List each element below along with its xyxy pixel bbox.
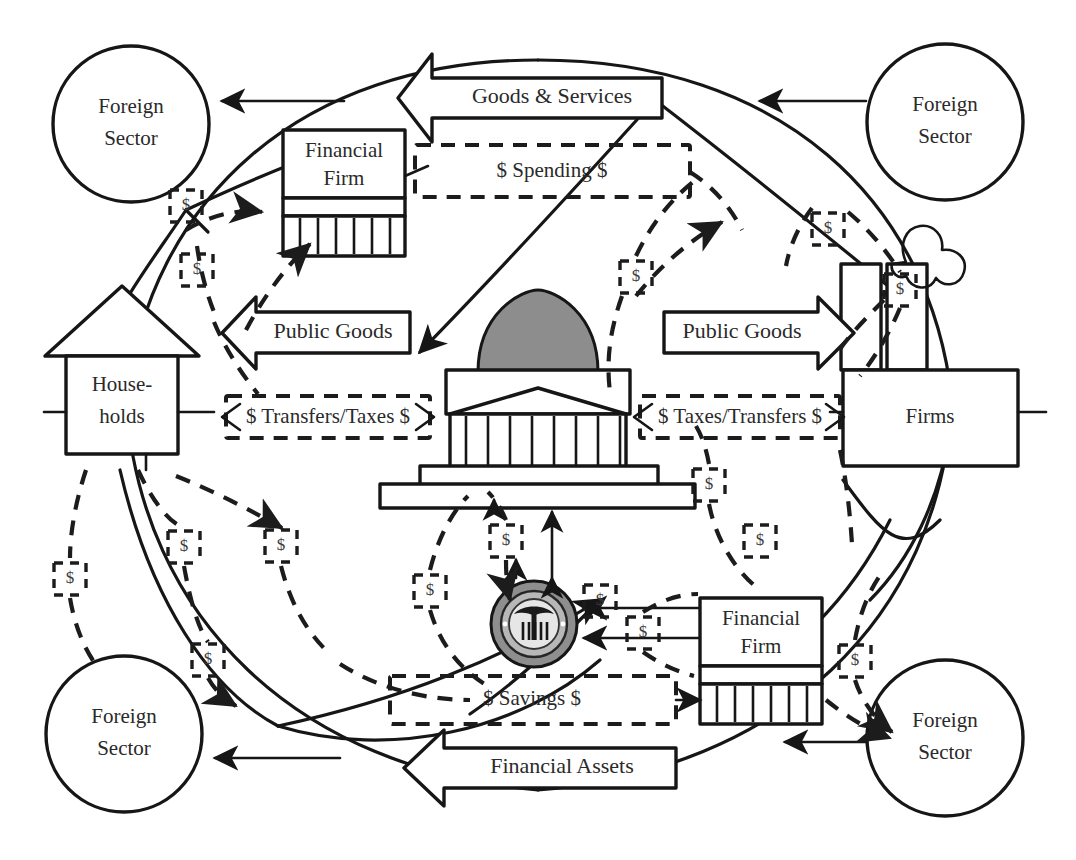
svg-text:$: $ bbox=[66, 568, 75, 587]
dollar-marker-7: $ bbox=[54, 563, 86, 595]
dollar-marker-9: $ bbox=[265, 530, 297, 562]
foreign-sector-label-line2: Sector bbox=[918, 124, 972, 148]
flow-savings-label: $ Savings $ bbox=[483, 686, 581, 710]
banner-public-goods-left-label: Public Goods bbox=[273, 318, 392, 343]
svg-text:$: $ bbox=[426, 580, 435, 599]
dollar-marker-14: $ bbox=[839, 645, 871, 677]
foreign-sector-label-line1: Foreign bbox=[912, 92, 978, 116]
foreign-sector-top-right[interactable]: Foreign Sector bbox=[867, 44, 1023, 200]
diagram-canvas: Foreign Sector Foreign Sector Foreign Se… bbox=[0, 0, 1076, 860]
banner-financial-assets-label: Financial Assets bbox=[490, 753, 634, 778]
flow-spending[interactable]: $ Spending $ bbox=[415, 145, 690, 197]
foreign-sector-label-line2: Sector bbox=[918, 740, 972, 764]
flow-spending-label: $ Spending $ bbox=[497, 158, 608, 182]
financial-firm-label-line1: Financial bbox=[722, 606, 800, 630]
firms-label: Firms bbox=[905, 404, 954, 428]
banner-public-goods-left[interactable]: Public Goods bbox=[222, 297, 410, 369]
dollar-marker-12: $ bbox=[490, 525, 522, 557]
dollar-marker-2: $ bbox=[181, 254, 213, 286]
foreign-sector-label-line2: Sector bbox=[104, 126, 158, 150]
circular-flow-diagram: Foreign Sector Foreign Sector Foreign Se… bbox=[0, 0, 1076, 860]
financial-firm-label-line2: Firm bbox=[741, 634, 782, 658]
flow-taxes-transfers-right[interactable]: $ Taxes/Transfers $ bbox=[634, 396, 844, 438]
firms-node[interactable]: Firms bbox=[830, 226, 1046, 466]
dollar-marker-13: $ bbox=[627, 617, 659, 649]
households-node[interactable]: House- holds bbox=[44, 286, 214, 470]
svg-text:$: $ bbox=[896, 279, 905, 298]
flow-transfers-taxes-left-label: $ Transfers/Taxes $ bbox=[246, 404, 410, 428]
households-label-line2: holds bbox=[99, 404, 145, 428]
dollar-marker-10: $ bbox=[414, 575, 446, 607]
svg-text:$: $ bbox=[193, 259, 202, 278]
banner-public-goods-right[interactable]: Public Goods bbox=[664, 297, 854, 369]
svg-text:$: $ bbox=[502, 530, 511, 549]
financial-firm-label-line1: Financial bbox=[305, 138, 383, 162]
flow-taxes-transfers-right-label: $ Taxes/Transfers $ bbox=[658, 404, 822, 428]
svg-text:$: $ bbox=[596, 590, 605, 609]
foreign-sector-bottom-right[interactable]: Foreign Sector bbox=[867, 660, 1023, 816]
svg-text:$: $ bbox=[180, 536, 189, 555]
svg-text:$: $ bbox=[756, 530, 765, 549]
svg-text:$: $ bbox=[851, 650, 860, 669]
foreign-sector-label-line2: Sector bbox=[97, 736, 151, 760]
banner-goods-services-label: Goods & Services bbox=[472, 83, 632, 108]
dollar-marker-3: $ bbox=[620, 261, 652, 293]
banner-public-goods-right-label: Public Goods bbox=[682, 318, 801, 343]
flow-savings[interactable]: $ Savings $ bbox=[390, 676, 676, 724]
dollar-marker-8: $ bbox=[168, 531, 200, 563]
federal-reserve-seal-icon bbox=[491, 581, 577, 667]
svg-text:$: $ bbox=[204, 649, 213, 668]
svg-text:$: $ bbox=[632, 266, 641, 285]
government-node[interactable] bbox=[380, 290, 695, 508]
foreign-sector-label-line1: Foreign bbox=[98, 94, 164, 118]
svg-text:$: $ bbox=[277, 535, 286, 554]
financial-firm-top[interactable]: Financial Firm bbox=[283, 130, 428, 256]
dollar-marker-16: $ bbox=[744, 525, 776, 557]
financial-firm-bottom[interactable]: Financial Firm bbox=[676, 598, 822, 724]
foreign-sector-label-line1: Foreign bbox=[912, 708, 978, 732]
capitol-building-icon bbox=[380, 290, 695, 508]
foreign-sector-top-left[interactable]: Foreign Sector bbox=[53, 46, 209, 202]
svg-text:$: $ bbox=[824, 218, 833, 237]
flow-transfers-taxes-left[interactable]: $ Transfers/Taxes $ bbox=[222, 396, 434, 438]
financial-firm-label-line2: Firm bbox=[324, 166, 365, 190]
households-label-line1: House- bbox=[92, 372, 153, 396]
svg-text:$: $ bbox=[639, 622, 648, 641]
banner-financial-assets[interactable]: Financial Assets bbox=[404, 730, 676, 806]
svg-text:$: $ bbox=[182, 195, 191, 214]
foreign-sector-label-line1: Foreign bbox=[91, 704, 157, 728]
dollar-marker-6: $ bbox=[693, 469, 725, 501]
foreign-sector-bottom-left[interactable]: Foreign Sector bbox=[46, 656, 202, 812]
svg-text:$: $ bbox=[705, 474, 714, 493]
